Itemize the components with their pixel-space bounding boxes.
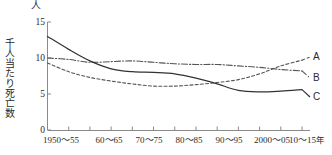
series-leader-c [302, 90, 310, 97]
x-tick-marks [48, 127, 303, 131]
series-leader-b [302, 71, 310, 78]
mortality-rate-line-chart: 人 千人当たり死亡数 15 10 5 0 1950〜55 60〜65 70〜75… [0, 0, 332, 155]
chart-plot-area [0, 0, 332, 155]
series-leader-a [302, 57, 310, 60]
series-line-b [48, 58, 303, 71]
